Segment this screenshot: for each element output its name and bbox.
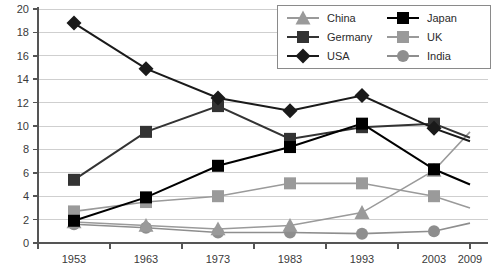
- data-point: [68, 215, 80, 227]
- legend-marker: [397, 31, 409, 43]
- data-point: [140, 126, 152, 138]
- x-tick-label: 1973: [206, 253, 230, 265]
- data-point: [284, 177, 296, 189]
- data-point: [355, 205, 370, 219]
- data-point: [428, 163, 440, 175]
- chart-legend: ChinaJapanGermanyUKUSAIndia: [277, 5, 490, 68]
- legend-label: Japan: [427, 12, 457, 24]
- y-tick-label: 12: [17, 97, 29, 109]
- data-point: [356, 228, 368, 240]
- y-tick-label: 10: [17, 120, 29, 132]
- x-tick-label: 1993: [350, 253, 374, 265]
- legend-marker: [397, 50, 409, 62]
- data-point: [140, 191, 152, 203]
- y-tick-label: 6: [23, 167, 29, 179]
- data-point: [212, 190, 224, 202]
- series-uk: [68, 177, 470, 217]
- x-tick-label: 2009: [458, 253, 482, 265]
- chart-svg: 02468101214161820 1953196319731983199320…: [0, 0, 492, 280]
- y-tick-label: 4: [23, 190, 29, 202]
- legend-marker: [297, 31, 309, 43]
- y-tick-label: 16: [17, 50, 29, 62]
- y-tick-label: 8: [23, 143, 29, 155]
- data-point: [139, 61, 154, 76]
- y-tick-label: 18: [17, 26, 29, 38]
- x-tick-label: 1983: [278, 253, 302, 265]
- legend-label: Germany: [327, 31, 373, 43]
- series-line: [74, 124, 470, 221]
- series-line: [74, 132, 470, 229]
- data-point: [355, 88, 370, 103]
- data-point: [356, 118, 368, 130]
- data-point: [428, 190, 440, 202]
- data-point: [283, 103, 298, 118]
- legend-item-germany[interactable]: Germany: [287, 31, 373, 43]
- x-tick-label: 1953: [62, 253, 86, 265]
- data-point: [428, 225, 440, 237]
- line-chart: 02468101214161820 1953196319731983199320…: [0, 0, 492, 280]
- y-axis-tick-labels: 02468101214161820: [17, 3, 29, 249]
- data-point: [68, 174, 80, 186]
- x-tick-label: 2003: [422, 253, 446, 265]
- y-tick-label: 20: [17, 3, 29, 15]
- y-tick-label: 14: [17, 73, 29, 85]
- data-point: [67, 16, 82, 31]
- series-japan: [68, 118, 470, 227]
- data-point: [284, 141, 296, 153]
- series-india: [68, 218, 470, 239]
- series-line: [74, 183, 470, 211]
- y-tick-label: 0: [23, 237, 29, 249]
- legend-label: UK: [427, 31, 443, 43]
- data-point: [356, 177, 368, 189]
- legend-marker: [397, 12, 409, 24]
- legend-label: India: [427, 50, 452, 62]
- x-axis-tick-labels: 1953196319731983199320032009: [62, 253, 482, 265]
- y-tick-label: 2: [23, 214, 29, 226]
- x-tick-label: 1963: [134, 253, 158, 265]
- legend-label: USA: [327, 50, 350, 62]
- data-point: [212, 160, 224, 172]
- legend-label: China: [327, 12, 357, 24]
